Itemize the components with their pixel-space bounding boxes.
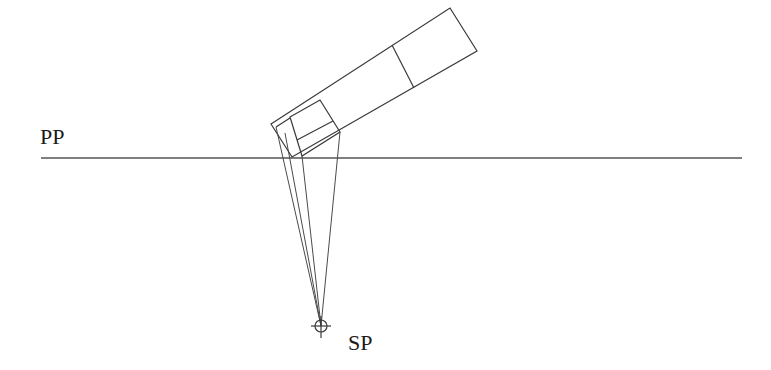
station-point-label: SP [348, 330, 372, 355]
visual-rays [276, 127, 340, 326]
perspective-plan-diagram: PP SP [0, 0, 771, 370]
object-plan-outline [271, 8, 477, 157]
station-point-icon [311, 316, 331, 338]
picture-plane-label: PP [40, 124, 64, 149]
visual-ray [276, 127, 321, 326]
visual-ray [321, 132, 340, 326]
object-plan-divider [392, 45, 414, 88]
object-inner-box [290, 100, 340, 156]
